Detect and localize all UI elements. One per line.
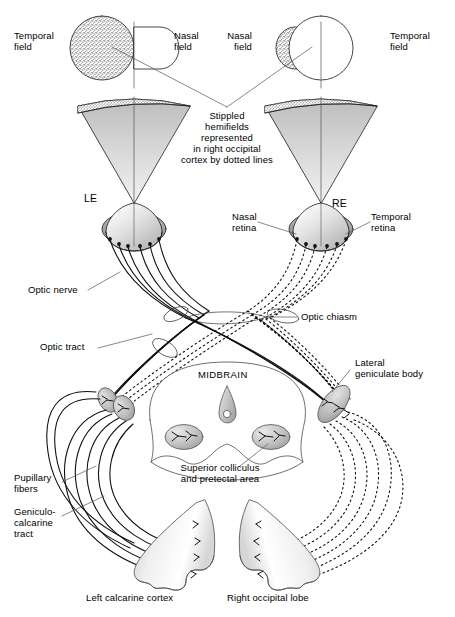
right-occipital-lobe [239,500,320,590]
label-midbrain: MIDBRAIN [198,369,248,380]
label-temporal-field-left: Temporal field [14,30,54,52]
right-lateral-geniculate-body [312,380,356,428]
superior-colliculus-right [252,425,290,450]
right-optic-nerve-fibers [248,240,346,320]
visual-pathway-diagram [0,0,455,617]
left-visual-field [70,16,179,88]
label-lateral-geniculate-body: Lateral geniculate body [355,357,423,379]
label-optic-chiasm: Optic chiasm [301,311,357,322]
right-visual-field [276,16,353,88]
label-pupillary-fibers: Pupillary fibers [14,472,51,494]
label-temporal-retina: Temporal retina [371,211,411,233]
figure-canvas: Temporal field Nasal field Nasal field T… [0,0,455,617]
label-optic-nerve: Optic nerve [28,284,78,295]
left-lateral-geniculate-body [94,384,139,424]
label-right-occipital-lobe: Right occipital lobe [227,592,309,603]
label-superior-colliculus: Superior colliculus and pretectal area [144,462,296,484]
left-calcarine-cortex [134,500,215,590]
label-optic-tract: Optic tract [40,341,84,352]
superior-colliculus-left [165,425,203,450]
label-nasal-field-right: Nasal field [186,30,252,52]
label-temporal-field-right: Temporal field [390,30,430,52]
right-eye-globe [289,203,353,251]
label-left-eye: LE [84,193,97,204]
label-left-calcarine-cortex: Left calcarine cortex [86,592,173,603]
label-geniculocalcarine-tract: Geniculo- calcarine tract [14,506,56,539]
left-optic-nerve-fibers [110,240,209,320]
label-nasal-retina: Nasal retina [232,211,257,233]
label-right-eye: RE [332,198,347,209]
label-center-note: Stippled hemifields represented in right… [152,110,302,165]
